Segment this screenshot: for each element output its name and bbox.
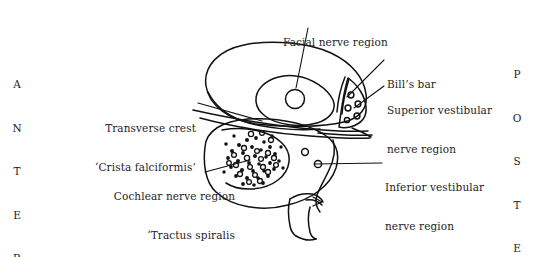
orientation-letter: T [8,164,26,179]
label-facial-nerve-region: Facial nerve region [283,10,388,75]
orientation-letter: O [508,111,526,126]
orientation-anterior: A N T E R I O R [8,48,26,257]
orientation-letter: E [8,208,26,223]
label-line: Transverse crest [86,122,196,135]
superior-vestibular-foramen [345,105,351,111]
inferior-vestibular-foramen [302,149,309,156]
label-line: Superior vestibular [387,104,492,117]
facial-nerve-canal-lumen [286,90,305,109]
orientation-letter: T [508,198,526,213]
facial-nerve-canal-outline [256,75,334,125]
label-line: nerve region [385,220,484,233]
label-singular-foramen: Singular foramen [311,236,406,257]
orientation-letter: S [508,154,526,169]
orientation-letter: P [508,67,526,82]
orientation-letter: A [8,77,26,92]
figure-canvas: Facial nerve region Bill’s bar Superior … [0,0,539,257]
label-line: Facial nerve region [283,36,388,49]
orientation-letter: R [8,251,26,257]
label-line: ‘Tractus spiralis [55,229,235,242]
label-line: Cochlear nerve region [55,190,235,203]
leader-inferior-vestibular [315,163,382,164]
label-line: Inferior vestibular [385,181,484,194]
orientation-letter: N [8,121,26,136]
orientation-posterior: P O S T E R I O R [508,38,526,257]
singular-foramen-tube-right [309,207,317,239]
orientation-letter: E [508,241,526,256]
superior-vestibular-area-outline [339,78,366,128]
label-cochlear-nerve-region: Cochlear nerve region ‘Tractus spiralis … [55,164,235,257]
